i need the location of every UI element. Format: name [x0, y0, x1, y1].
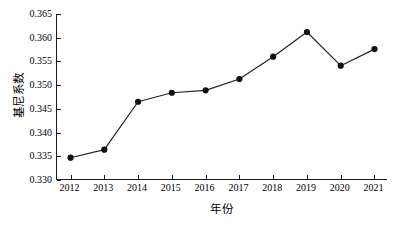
- y-axis-tick: [57, 109, 61, 110]
- x-axis-tick: [206, 175, 207, 179]
- data-point: [270, 54, 276, 60]
- data-point: [101, 147, 107, 153]
- data-point: [338, 63, 344, 69]
- x-axis-tick: [341, 175, 342, 179]
- y-axis-tick-label: 0.335: [18, 151, 52, 161]
- gini-coefficient-line-chart: 基尼系数 0.3300.3350.3400.3450.3500.3550.360…: [0, 0, 405, 226]
- x-axis-tick: [71, 175, 72, 179]
- y-axis-tick: [57, 61, 61, 62]
- data-point: [371, 46, 377, 52]
- y-axis-tick-label: 0.365: [18, 9, 52, 19]
- data-point: [203, 87, 209, 93]
- x-axis-tick: [239, 175, 240, 179]
- data-point: [304, 29, 310, 35]
- y-axis-tick-label: 0.330: [18, 175, 52, 185]
- x-axis-tick-label: 2021: [353, 182, 393, 194]
- x-axis-tick: [138, 175, 139, 179]
- data-point: [169, 90, 175, 96]
- x-axis-tick: [273, 175, 274, 179]
- y-axis-tick-label: 0.340: [18, 128, 52, 138]
- data-point: [67, 155, 73, 161]
- y-axis-tick: [57, 14, 61, 15]
- series-line: [71, 32, 375, 158]
- data-point: [135, 99, 141, 105]
- data-series-gini: [57, 14, 388, 180]
- y-axis-tick-label: 0.360: [18, 33, 52, 43]
- x-axis-title: 年份: [56, 200, 387, 216]
- y-axis-tick-label: 0.350: [18, 80, 52, 90]
- x-axis-tick: [307, 175, 308, 179]
- y-axis-tick: [57, 38, 61, 39]
- y-axis-tick-label: 0.345: [18, 104, 52, 114]
- y-axis-tick: [57, 180, 61, 181]
- x-axis-tick: [104, 175, 105, 179]
- data-point: [236, 76, 242, 82]
- y-axis-tick: [57, 156, 61, 157]
- plot-area: [56, 14, 387, 180]
- y-axis-tick-labels: 0.3300.3350.3400.3450.3500.3550.3600.365: [18, 0, 52, 226]
- y-axis-tick: [57, 133, 61, 134]
- y-axis-tick: [57, 85, 61, 86]
- x-axis-tick: [172, 175, 173, 179]
- x-axis-tick-labels: 2012201320142015201620172018201920202021: [56, 182, 387, 198]
- x-axis-tick: [374, 175, 375, 179]
- y-axis-tick-label: 0.355: [18, 56, 52, 66]
